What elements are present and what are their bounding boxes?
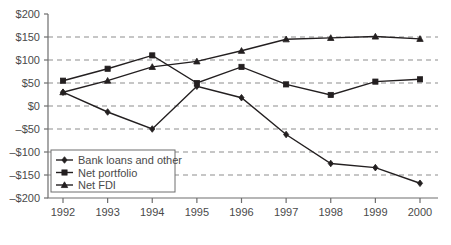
marker-square xyxy=(150,53,155,58)
y-axis-tick-label: –$100 xyxy=(9,146,40,158)
x-axis-tick-label: 1998 xyxy=(319,206,343,218)
y-axis-tick-label: –$150 xyxy=(9,169,40,181)
x-axis-tick-label: 1994 xyxy=(140,206,164,218)
x-axis-tick-label: 2000 xyxy=(408,206,432,218)
x-axis-tick-labels: 199219931994199519961997199819992000 xyxy=(51,206,432,218)
marker-square xyxy=(239,64,244,69)
line-chart: $200$150$100$50$0–$50–$100–$150–$200 199… xyxy=(0,0,451,245)
marker-square xyxy=(417,77,422,82)
y-axis-tick-label: –$200 xyxy=(9,192,40,204)
marker-square xyxy=(62,170,67,175)
marker-square xyxy=(105,66,110,71)
y-axis-tick-label: $150 xyxy=(16,31,40,43)
x-axis-tick-label: 1992 xyxy=(51,206,75,218)
y-axis-tick-label: $0 xyxy=(28,100,40,112)
x-axis-tick-label: 1999 xyxy=(363,206,387,218)
legend-item-label: Net portfolio xyxy=(78,167,137,179)
y-axis-tick-label: $200 xyxy=(16,8,40,20)
legend-item-label: Bank loans and other xyxy=(78,154,182,166)
x-axis-tick-label: 1993 xyxy=(95,206,119,218)
chart-container: $200$150$100$50$0–$50–$100–$150–$200 199… xyxy=(0,0,451,245)
y-axis-tick-label: $100 xyxy=(16,54,40,66)
y-axis-tick-label: $50 xyxy=(22,77,40,89)
marker-square xyxy=(284,82,289,87)
marker-square xyxy=(328,92,333,97)
chart-legend: Bank loans and otherNet portfolioNet FDI xyxy=(51,150,182,192)
legend-item-label: Net FDI xyxy=(78,179,116,191)
marker-square xyxy=(373,79,378,84)
x-axis-tick-label: 1996 xyxy=(229,206,253,218)
marker-square xyxy=(194,80,199,85)
marker-square xyxy=(60,78,65,83)
x-axis-tick-label: 1995 xyxy=(185,206,209,218)
x-axis-tick-label: 1997 xyxy=(274,206,298,218)
y-axis-tick-label: –$50 xyxy=(16,123,40,135)
